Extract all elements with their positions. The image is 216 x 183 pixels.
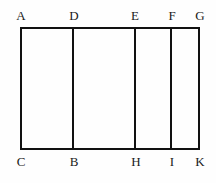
vertex-label-k: K [190, 155, 210, 168]
diagram-canvas [0, 0, 216, 183]
vertex-label-e: E [125, 9, 145, 22]
vertex-label-i: I [162, 155, 182, 168]
vertex-label-g: G [190, 9, 210, 22]
vertex-label-c: C [11, 155, 31, 168]
geometry-figure: A D E F G C B H I K [0, 0, 216, 183]
vertex-label-h: H [126, 155, 146, 168]
vertex-label-a: A [11, 9, 31, 22]
vertex-label-f: F [162, 9, 182, 22]
vertex-label-d: D [64, 9, 84, 22]
vertex-label-b: B [64, 155, 84, 168]
